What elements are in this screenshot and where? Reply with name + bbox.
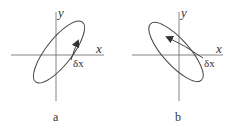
delta-x-label-b: δx <box>204 57 215 69</box>
diagram-a: y x δx a <box>11 5 104 124</box>
figure: y x δx a y x δx b <box>0 0 232 131</box>
x-label-b: x <box>215 41 222 56</box>
caption-b: b <box>175 110 181 124</box>
x-label-a: x <box>95 41 102 56</box>
y-label-b: y <box>179 5 187 20</box>
delta-x-label-a: δx <box>73 57 84 69</box>
y-label-a: y <box>56 5 64 20</box>
diagram-b: y x δx b <box>132 5 223 124</box>
phase-ellipse-b <box>141 15 211 89</box>
phase-ellipse-a <box>25 14 92 90</box>
caption-a: a <box>53 110 59 124</box>
